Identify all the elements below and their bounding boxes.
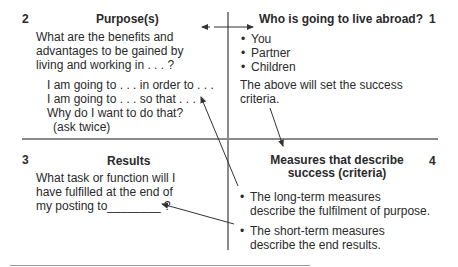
arrow-shortterm-to-results [162,204,234,224]
arrow-to-measures [270,108,283,146]
arrow-longterm-to-purpose [201,97,238,186]
connector-arrows [0,0,458,267]
